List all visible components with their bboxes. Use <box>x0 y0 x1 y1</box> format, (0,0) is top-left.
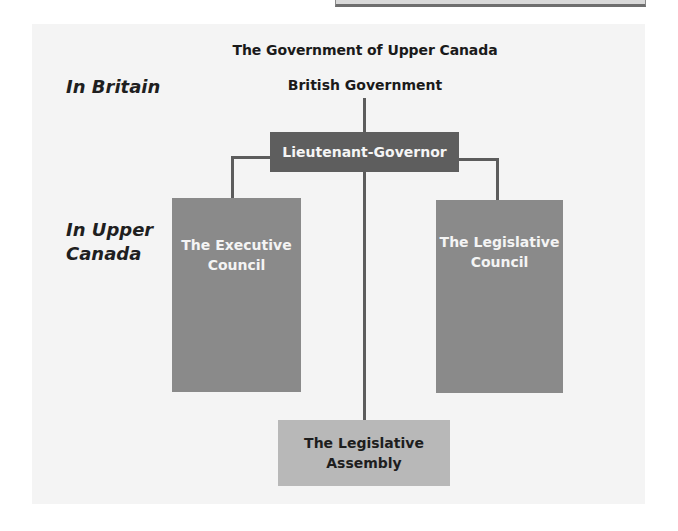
top-decorative-box <box>335 0 646 7</box>
diagram-stage: The Government of Upper Canada In Britai… <box>0 0 678 531</box>
node-lieutenant-governor: Lieutenant-Governor <box>270 132 459 172</box>
region-label-upper-canada: In Upper Canada <box>66 218 153 266</box>
connector-left-vertical <box>231 156 234 198</box>
node-label-line: Council <box>440 252 560 272</box>
region-label-line: In Upper <box>66 218 153 242</box>
connector-right-vertical <box>496 158 499 200</box>
connector-right-horizontal <box>458 158 499 161</box>
node-label-line: The Legislative <box>304 433 424 453</box>
node-label-line: The Executive <box>181 235 291 255</box>
region-label-line: Canada <box>66 242 153 266</box>
node-label-line: The Legislative <box>440 232 560 252</box>
node-legislative-assembly: The Legislative Assembly <box>278 420 450 486</box>
node-executive-council: The Executive Council <box>172 198 301 392</box>
node-label-line: Assembly <box>304 453 424 473</box>
node-label: Lieutenant-Governor <box>282 142 446 162</box>
region-label-britain: In Britain <box>66 75 160 99</box>
connector-left-horizontal <box>231 156 271 159</box>
diagram-title: The Government of Upper Canada <box>200 42 530 58</box>
node-label-line: Council <box>181 255 291 275</box>
node-british-government: British Government <box>265 77 465 93</box>
node-legislative-council: The Legislative Council <box>436 200 563 393</box>
